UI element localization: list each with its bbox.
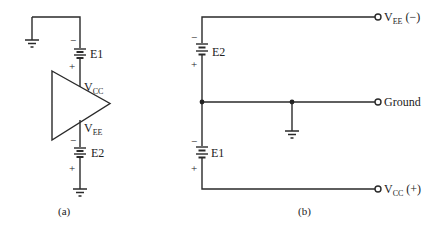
e1-minus-sign-b: − xyxy=(191,135,197,147)
junction-dot xyxy=(200,100,205,105)
ground-terminal-label: Ground xyxy=(384,95,421,109)
caption-b: (b) xyxy=(298,205,311,218)
battery-e2-icon xyxy=(196,44,208,55)
dual-supply-circuit-diagram: − + E1 VCC VEE − + E2 (a) VEE ( xyxy=(0,0,434,226)
battery-e1-icon xyxy=(74,49,86,58)
vcc-terminal-label: VCC (+) xyxy=(384,182,421,198)
ground-icon xyxy=(25,17,39,47)
caption-a: (a) xyxy=(58,205,71,218)
e1-minus-sign: − xyxy=(70,34,76,46)
wire-vee xyxy=(202,17,375,43)
vee-terminal-label: VEE (−) xyxy=(384,10,420,26)
ground-terminal-icon[interactable] xyxy=(375,99,381,105)
ground-icon xyxy=(285,102,299,138)
vee-terminal-icon[interactable] xyxy=(375,14,381,20)
vee-label-a: VEE xyxy=(84,121,103,137)
wire-vcc xyxy=(202,158,375,189)
e1-plus-sign-b: + xyxy=(191,162,197,174)
panel-a: − + E1 VCC VEE − + E2 (a) xyxy=(25,17,110,218)
vcc-label-a: VCC xyxy=(84,80,103,96)
e2-plus-sign: + xyxy=(69,162,75,174)
e2-minus-sign: − xyxy=(70,134,76,146)
e2-label: E2 xyxy=(91,146,104,160)
battery-e2-icon xyxy=(74,148,86,157)
battery-e1-icon xyxy=(196,147,208,158)
vcc-terminal-icon[interactable] xyxy=(375,186,381,192)
e1-label-b: E1 xyxy=(211,146,224,160)
e1-plus-sign: + xyxy=(69,60,75,72)
e2-label-b: E2 xyxy=(212,45,225,59)
e1-label: E1 xyxy=(90,47,103,61)
e2-plus-sign-b: + xyxy=(191,58,197,70)
e2-minus-sign-b: − xyxy=(191,31,197,43)
panel-b: VEE (−) − + E2 Ground − xyxy=(191,10,421,218)
